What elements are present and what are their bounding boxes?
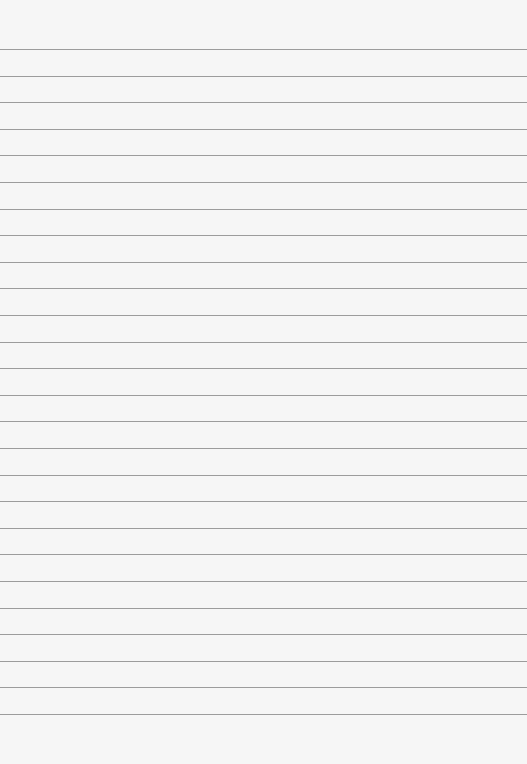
ruled-line: [0, 129, 527, 130]
ruled-line: [0, 661, 527, 662]
ruled-line: [0, 714, 527, 715]
ruled-line: [0, 342, 527, 343]
ruled-line: [0, 581, 527, 582]
ruled-line: [0, 76, 527, 77]
ruled-line: [0, 102, 527, 103]
ruled-line: [0, 155, 527, 156]
ruled-line: [0, 687, 527, 688]
ruled-line: [0, 421, 527, 422]
ruled-line: [0, 315, 527, 316]
lined-paper: [0, 0, 527, 764]
ruled-line: [0, 262, 527, 263]
ruled-line: [0, 501, 527, 502]
ruled-line: [0, 475, 527, 476]
ruled-line: [0, 608, 527, 609]
ruled-line: [0, 368, 527, 369]
ruled-line: [0, 554, 527, 555]
ruled-line: [0, 49, 527, 50]
ruled-line: [0, 634, 527, 635]
ruled-line: [0, 182, 527, 183]
ruled-line: [0, 235, 527, 236]
ruled-line: [0, 395, 527, 396]
ruled-line: [0, 528, 527, 529]
ruled-line: [0, 209, 527, 210]
ruled-line: [0, 448, 527, 449]
ruled-line: [0, 288, 527, 289]
